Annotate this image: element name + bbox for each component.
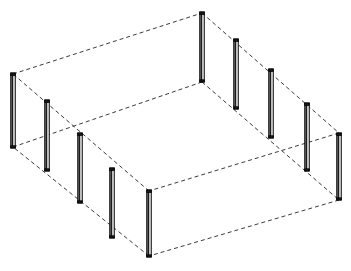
post-shaded-side	[110, 169, 112, 237]
posts-group	[11, 12, 342, 257]
post-shaded-side	[11, 74, 13, 147]
post-bottom-cap	[11, 146, 16, 148]
post-post-l4	[110, 168, 115, 238]
post-post-r4	[337, 133, 342, 200]
post-top-cap	[337, 133, 342, 135]
top-edge-top-right-to-top-front	[149, 133, 339, 191]
post-bottom-cap	[305, 169, 310, 171]
post-top-cap	[11, 73, 16, 75]
post-bottom-cap	[269, 136, 274, 138]
bottom-edge-bot-left-to-bot-back	[13, 82, 202, 147]
post-top-cap	[45, 100, 50, 102]
post-top-cap	[110, 168, 115, 170]
post-top-cap	[305, 103, 310, 105]
post-bottom-cap	[147, 255, 152, 257]
post-post-r1	[234, 39, 239, 109]
post-post-r2	[269, 69, 274, 138]
post-shaded-side	[269, 70, 271, 137]
post-top-cap	[147, 190, 152, 192]
post-post-l2	[45, 100, 50, 171]
post-top-cap	[234, 39, 239, 41]
top-edge-top-left-to-top-back	[13, 13, 202, 74]
enclosure-wireframe-diagram	[0, 0, 351, 271]
post-shaded-side	[45, 101, 47, 170]
post-post-l5	[147, 190, 152, 257]
post-shaded-side	[200, 13, 202, 81]
post-bottom-cap	[110, 236, 115, 238]
post-bottom-cap	[337, 198, 342, 200]
post-top-cap	[78, 133, 83, 135]
post-bottom-cap	[200, 80, 205, 82]
wireframe-edges	[13, 13, 339, 256]
post-post-l3	[78, 133, 83, 203]
post-shaded-side	[234, 40, 236, 108]
post-post-l1	[11, 73, 16, 148]
post-bottom-cap	[78, 201, 83, 203]
post-top-cap	[269, 69, 274, 71]
bottom-edge-bot-right-to-bot-front	[149, 200, 339, 256]
post-shaded-side	[305, 104, 307, 170]
post-top-cap	[200, 12, 205, 14]
post-post-r3	[305, 103, 310, 171]
post-shaded-side	[78, 134, 80, 202]
post-post-b1	[200, 12, 205, 82]
post-bottom-cap	[234, 107, 239, 109]
post-shaded-side	[337, 134, 339, 199]
post-bottom-cap	[45, 169, 50, 171]
post-shaded-side	[147, 191, 149, 256]
figure-root	[0, 0, 351, 271]
